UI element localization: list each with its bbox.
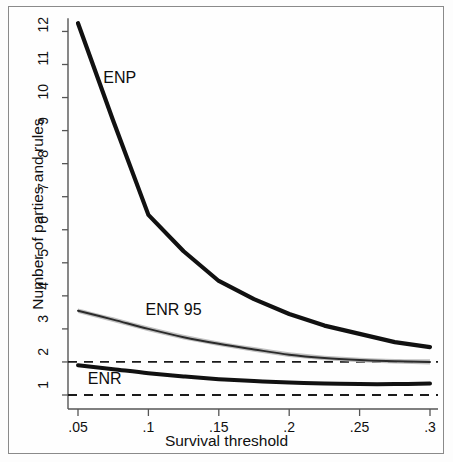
enr95-annotation: ENR 95 <box>146 301 202 319</box>
y-tick-label: 5 <box>35 249 51 275</box>
x-tick-label: .3 <box>410 419 450 435</box>
x-tick-label: .25 <box>340 419 380 435</box>
x-tick-label: .05 <box>58 419 98 435</box>
enp-annotation: ENP <box>103 69 136 87</box>
y-tick-label: 3 <box>35 315 51 341</box>
y-tick-label: 6 <box>35 216 51 242</box>
y-tick-label: 11 <box>35 51 51 77</box>
x-tick-label: .15 <box>199 419 239 435</box>
y-tick-label: 7 <box>35 183 51 209</box>
y-tick-label: 2 <box>35 348 51 374</box>
y-tick-label: 4 <box>35 282 51 308</box>
y-tick-label: 1 <box>35 381 51 407</box>
chart-figure: Number of parties and rules Survival thr… <box>0 0 453 462</box>
x-tick-label: .2 <box>269 419 309 435</box>
chart-plot-area <box>0 0 453 462</box>
x-tick-label: .1 <box>128 419 168 435</box>
y-tick-label: 9 <box>35 117 51 143</box>
enr-annotation: ENR <box>88 370 122 388</box>
y-tick-label: 10 <box>35 84 51 110</box>
y-tick-label: 8 <box>35 150 51 176</box>
y-tick-label: 12 <box>35 17 51 43</box>
series-line-enr <box>78 365 430 384</box>
